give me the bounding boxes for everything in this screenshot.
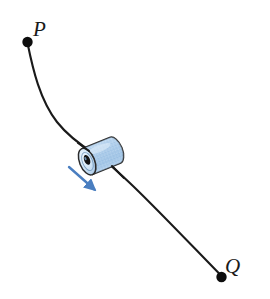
point-p-dot	[22, 37, 32, 47]
physics-diagram-canvas: P Q	[0, 0, 270, 299]
point-p-label: P	[32, 17, 46, 41]
bead-on-wire-diagram: P Q	[0, 0, 270, 299]
point-q-label: Q	[225, 254, 240, 278]
